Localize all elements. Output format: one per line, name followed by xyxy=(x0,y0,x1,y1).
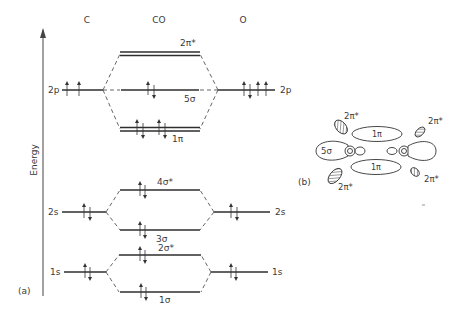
mo-5sigma-label: 5σ xyxy=(184,94,196,104)
atom-o-circle xyxy=(399,146,409,156)
mo-2sigma-star-label: 2σ* xyxy=(158,243,174,253)
mo-1pi-label: 1π xyxy=(172,134,184,144)
pi-star-label-top-left: 2π* xyxy=(344,111,359,121)
pi-label-bottom: 1π xyxy=(371,163,381,172)
level-group-2p: 2p 2p 2π* 5σ xyxy=(48,38,292,144)
correlation-line xyxy=(200,90,218,129)
correlation-line xyxy=(106,272,119,292)
mo-1pi-electrons xyxy=(135,119,167,139)
c-2s-label: 2s xyxy=(48,207,59,217)
mo-1sigma-label: 1σ xyxy=(159,295,171,305)
sigma-lobe-o-small xyxy=(387,148,397,155)
correlation-line xyxy=(106,190,120,212)
pi-star-label-top-right: 2π* xyxy=(428,116,443,126)
atom-c-circle xyxy=(345,146,355,156)
sigma-label: 5σ xyxy=(321,146,332,156)
correlation-line xyxy=(201,255,211,272)
mo-2pi-star-label: 2π* xyxy=(180,38,196,48)
o-1s-label: 1s xyxy=(272,267,283,277)
correlation-line xyxy=(201,272,211,292)
sigma-lobe-o-large xyxy=(408,142,436,161)
o-2s-label: 2s xyxy=(275,207,286,217)
pi-star-label-bottom-left: 2π* xyxy=(338,182,353,192)
correlation-line xyxy=(200,54,218,90)
panel-b-orbital-sketch: (b) 2π* 2π* 2π* 2π* 1π 1π 5σ xyxy=(298,111,443,192)
panel-b-label: (b) xyxy=(298,177,311,187)
c-2p-electrons xyxy=(65,81,81,96)
correlation-line xyxy=(106,255,119,272)
o-2p-label: 2p xyxy=(280,85,292,95)
pi-star-lobe-top-right xyxy=(413,125,426,138)
correlation-line xyxy=(103,90,120,129)
correlation-line xyxy=(106,212,120,230)
energy-axis: Energy xyxy=(29,28,46,296)
energy-axis-arrowhead-icon xyxy=(40,28,46,38)
c-2p-label: 2p xyxy=(48,85,60,95)
correlation-line xyxy=(103,54,120,90)
pi-star-label-bottom-right: 2π* xyxy=(424,174,439,184)
pi-label-top: 1π xyxy=(372,130,382,139)
mo-4sigma-star-label: 4σ* xyxy=(157,177,173,187)
column-label-o: O xyxy=(239,15,246,25)
c-1s-label: 1s xyxy=(50,267,61,277)
correlation-line xyxy=(200,212,214,230)
pi-star-lobe-bottom-right xyxy=(409,166,421,178)
level-group-2s: 2s 2s 4σ* 3σ xyxy=(48,177,286,244)
co-molecular-orbital-diagram: C CO O Energy 2p 2p xyxy=(0,0,465,320)
sigma-lobe-c-small xyxy=(355,147,365,155)
panel-a-label: (a) xyxy=(18,286,31,296)
level-group-1s: 1s 1s 2σ* 1σ xyxy=(50,243,283,305)
energy-axis-label: Energy xyxy=(29,144,39,176)
column-label-c: C xyxy=(84,15,90,25)
column-label-co: CO xyxy=(152,15,165,25)
correlation-line xyxy=(200,190,214,212)
